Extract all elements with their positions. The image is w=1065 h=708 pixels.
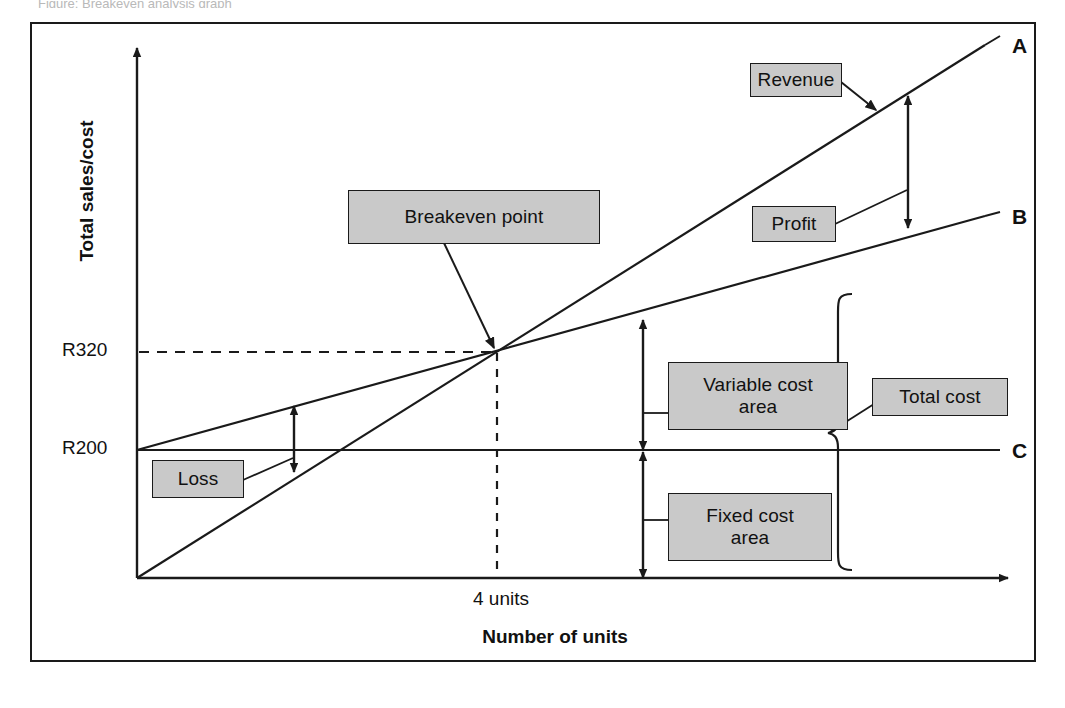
callout-revenue[interactable]: Revenue	[750, 63, 842, 97]
loss-leader-line	[243, 458, 293, 480]
line-label-b: B	[1012, 205, 1027, 229]
variable-cost-line-1: Variable cost	[703, 374, 813, 396]
callout-variable-cost-area[interactable]: Variable cost area	[668, 362, 848, 430]
x-tick-label-4-units: 4 units	[456, 588, 546, 610]
breakeven-leader-arrow	[444, 243, 494, 348]
fixed-cost-line-2: area	[731, 527, 769, 549]
callout-breakeven-point[interactable]: Breakeven point	[348, 190, 600, 244]
revenue-line-a	[137, 45, 985, 578]
callout-loss[interactable]: Loss	[152, 460, 244, 498]
line-label-c: C	[1012, 439, 1027, 463]
y-axis-title: Total sales/cost	[76, 91, 98, 291]
y-tick-label-r200: R200	[62, 437, 107, 459]
profit-leader-line	[835, 190, 907, 224]
figure-page: Figure: Breakeven analysis graph	[0, 0, 1065, 708]
revenue-leader-arrow	[841, 82, 876, 110]
line-a-connector	[985, 36, 1000, 45]
fixed-cost-line-1: Fixed cost	[706, 505, 794, 527]
y-tick-label-r320: R320	[62, 339, 107, 361]
line-label-a: A	[1012, 34, 1027, 58]
variable-cost-line-2: area	[739, 396, 777, 418]
line-b-connector	[985, 212, 1000, 216]
x-axis-title: Number of units	[445, 626, 665, 648]
callout-total-cost[interactable]: Total cost	[872, 378, 1008, 416]
callout-fixed-cost-area[interactable]: Fixed cost area	[668, 493, 832, 561]
callout-profit[interactable]: Profit	[752, 206, 836, 242]
